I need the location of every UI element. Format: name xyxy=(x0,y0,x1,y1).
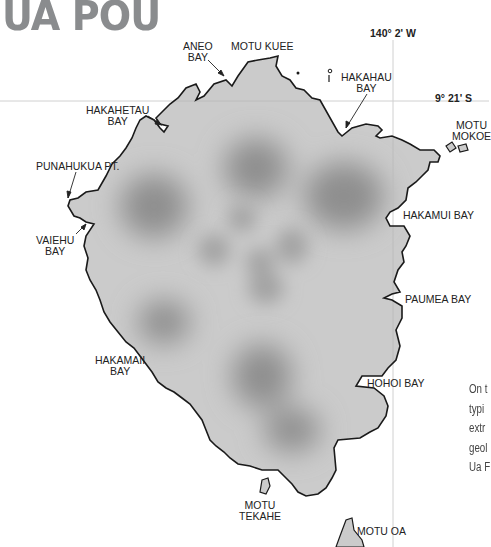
latitude-label: 9° 21' S xyxy=(435,92,472,104)
motu-mokoe-islet-b xyxy=(458,144,468,152)
motu-kuee-islet xyxy=(297,72,300,75)
label-hakahetau-bay: HAKAHETAU BAY xyxy=(86,105,149,127)
label-hakamui-bay: HAKAMUI BAY xyxy=(403,210,474,221)
label-paumea-bay: PAUMEA BAY xyxy=(405,294,471,305)
label-hohoi-bay: HOHOI BAY xyxy=(367,378,425,389)
label-aneo-bay: ANEO BAY xyxy=(183,41,213,63)
label-motu-oa: MOTU OA xyxy=(357,526,406,537)
motu-tekahe-islet xyxy=(260,478,270,494)
label-motu-tekahe: MOTU TEKAHE xyxy=(239,500,281,522)
label-punahukua-pt: PUNAHUKUA PT. xyxy=(36,161,119,172)
label-vaiehu-bay: VAIEHU BAY xyxy=(36,235,74,257)
label-hakahau-bay: HAKAHAU BAY xyxy=(341,72,392,94)
label-motu-kuee: MOTU KUEE xyxy=(231,41,293,52)
side-body-text: On t typi extr geol Ua F xyxy=(469,380,490,478)
motu-mokoe-islet-a xyxy=(446,142,456,152)
label-motu-mokoe: MOTU MOKOE xyxy=(452,120,491,142)
longitude-label: 140° 2' W xyxy=(370,27,416,39)
label-hakamaii-bay: HAKAMAII BAY xyxy=(95,355,145,377)
